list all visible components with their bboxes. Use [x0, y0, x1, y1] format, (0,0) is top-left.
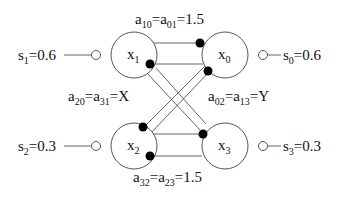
- edge-x1-to-x3-b: [156, 68, 206, 124]
- input-port-x1: [92, 51, 101, 60]
- edge-x2-to-x0-a: [143, 65, 206, 128]
- input-port-x3: [259, 142, 268, 151]
- coupling-label-a20-a31: a20=a31=X: [68, 88, 129, 107]
- input-label-s2: s2=0.3: [18, 138, 56, 157]
- edge-x1-to-x3-a: [146, 72, 200, 130]
- coupling-label-a02-a13: a02=a13=Y: [208, 88, 269, 107]
- synapse-x1-from-x0: [146, 60, 155, 69]
- synapse-x3-from-x1: [199, 130, 208, 139]
- input-port-x0: [259, 51, 268, 60]
- input-port-x2: [92, 142, 101, 151]
- synapse-x2-from-x3: [146, 152, 155, 161]
- input-label-s3: s3=0.3: [283, 138, 321, 157]
- coupling-label-a10-a01: a10=a01=1.5: [135, 11, 204, 30]
- synapse-x2-from-x0: [139, 123, 148, 132]
- synapse-x0-from-x2: [204, 67, 213, 76]
- four-unit-network-diagram: x1 x0 x2 x3 s1=0.6 s0=0.6 s2=0.3 s3=0.3 …: [0, 0, 345, 202]
- input-label-s1: s1=0.6: [18, 47, 57, 66]
- synapse-x0-from-x1: [196, 39, 205, 48]
- coupling-label-a32-a23: a32=a23=1.5: [133, 169, 202, 188]
- input-label-s0: s0=0.6: [283, 47, 322, 66]
- edge-x2-to-x0-b: [150, 72, 209, 134]
